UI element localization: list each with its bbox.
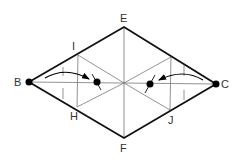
- right-fold-arrow-icon: [159, 74, 203, 80]
- label-E: E: [120, 12, 127, 24]
- construction-lines: [29, 27, 216, 138]
- line-I-center: [78, 55, 124, 83]
- inner-dot-right: [147, 81, 154, 88]
- inner-dot-left: [94, 79, 101, 86]
- label-J: J: [168, 114, 174, 126]
- rhombus-fold-diagram: B C E F I H J: [0, 0, 238, 165]
- label-C: C: [221, 78, 229, 90]
- line-center-J: [124, 83, 170, 110]
- line-H-center: [77, 83, 124, 107]
- label-F: F: [120, 142, 127, 154]
- label-B: B: [14, 76, 21, 88]
- vertex-dot-C: [213, 81, 220, 88]
- vertical-IH: [77, 55, 78, 107]
- vertical-KJ: [170, 57, 171, 110]
- label-I: I: [72, 40, 75, 52]
- label-H: H: [70, 110, 78, 122]
- left-fold-arrow-icon: [45, 72, 89, 79]
- vertex-dot-B: [26, 79, 33, 86]
- line-center-K: [124, 57, 171, 83]
